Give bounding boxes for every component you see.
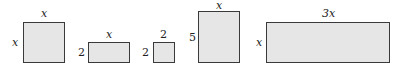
square-2-top-label: 2 [160,29,167,40]
rect-x-by-5 [198,11,240,63]
square-x-top-label: x [41,8,47,19]
rect-3x-by-x [266,22,390,63]
square-x-side-label: x [12,37,18,48]
rect-3x-top-label: 3x [322,8,335,19]
rect-x5-side-label: 5 [189,32,196,43]
rect-x5-top-label: x [216,0,222,11]
square-x-by-x [23,22,65,63]
rect-x-by-2 [88,42,130,63]
rect-x2-side-label: 2 [78,47,85,58]
rect-x2-top-label: x [106,29,112,40]
square-2-side-label: 2 [142,47,149,58]
rect-3x-side-label: x [256,37,262,48]
square-2-by-2 [153,42,175,63]
